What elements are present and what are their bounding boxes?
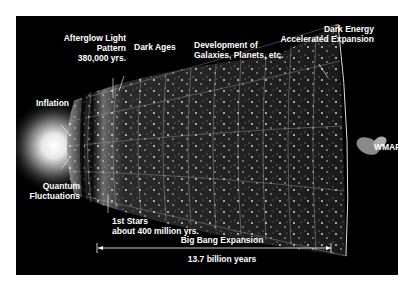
- big-bang-expansion-label: Big Bang Expansion: [166, 235, 278, 245]
- inflation-label: Inflation: [36, 98, 69, 108]
- quantum-fluctuations-label: Quantum Fluctuations: [16, 181, 80, 201]
- dark-energy-label: Dark Energy Accelerated Expansion: [256, 24, 374, 44]
- first-stars-label: 1st Stars about 400 million yrs.: [112, 216, 199, 236]
- cropped-caption-fragment: [48, 0, 298, 4]
- duration-label: 13.7 billion years: [166, 254, 278, 264]
- wmap-label: WMAP: [374, 142, 398, 152]
- dark-ages-label: Dark Ages: [134, 42, 176, 52]
- afterglow-label: Afterglow Light Pattern 380,000 yrs.: [38, 33, 126, 63]
- universe-timeline-diagram: Afterglow Light Pattern 380,000 yrs. Dar…: [16, 16, 398, 275]
